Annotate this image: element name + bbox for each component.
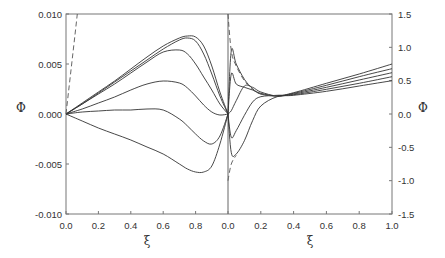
series-right-dashed-lower	[228, 155, 236, 180]
y-axis-label-right: Φ	[418, 101, 428, 115]
y-tick-label-left: 0.005	[38, 59, 62, 70]
x-tick-label: 0.2	[92, 220, 105, 231]
y-tick-label-right: -1.5	[398, 209, 414, 220]
x-tick-label: 1.0	[385, 220, 398, 231]
plot-border	[66, 14, 392, 214]
y-tick-label-right: -1.0	[398, 175, 414, 186]
series-left-curve-2	[66, 38, 228, 114]
y-tick-label-left: 0.010	[38, 9, 62, 20]
x-tick-label: 0.8	[189, 220, 202, 231]
x-tick-label: 0.2	[254, 220, 267, 231]
y-axis-label-left: Φ	[16, 101, 26, 115]
x-axis-label-right: ξ	[307, 234, 314, 248]
y-tick-label-right: 1.5	[398, 9, 411, 20]
axis-ticks: 0.00.20.40.60.80.00.20.40.60.81.00.0100.…	[35, 9, 414, 232]
y-tick-label-left: -0.010	[35, 209, 62, 220]
x-tick-label: 0.6	[320, 220, 333, 231]
x-tick-label: 0.0	[221, 220, 234, 231]
y-tick-label-right: 1.0	[398, 42, 411, 53]
y-tick-label-right: 0.0	[398, 109, 411, 120]
series-right-curve-2	[228, 69, 392, 114]
x-tick-label: 0.8	[353, 220, 366, 231]
series-left-curve-1	[66, 36, 228, 114]
series-right-curve-4	[228, 77, 392, 138]
x-tick-label: 0.0	[59, 220, 72, 231]
series-right-curve-1	[228, 48, 392, 114]
series-left-curve-6	[66, 114, 228, 173]
series-right-dashed-reference	[228, 14, 277, 96]
chart: 0.00.20.40.60.80.00.20.40.60.81.00.0100.…	[0, 0, 445, 258]
x-axis-label-left: ξ	[144, 234, 151, 248]
y-tick-label-left: 0.000	[38, 109, 62, 120]
x-tick-label: 0.4	[124, 220, 137, 231]
y-tick-label-right: 0.5	[398, 75, 411, 86]
x-tick-label: 0.4	[287, 220, 300, 231]
y-tick-label-left: -0.005	[35, 159, 62, 170]
plot-frame	[66, 14, 392, 214]
y-tick-label-right: -0.5	[398, 142, 414, 153]
x-tick-label: 0.6	[157, 220, 170, 231]
series-left-curve-5	[66, 109, 228, 144]
data-curves	[66, 14, 392, 181]
